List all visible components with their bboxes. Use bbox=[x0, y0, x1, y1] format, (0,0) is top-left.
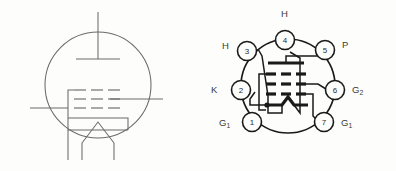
pin-2-label: K bbox=[211, 84, 218, 95]
pin-3-label: H bbox=[222, 40, 229, 51]
pin-1-label-subscript: 1 bbox=[227, 122, 231, 129]
tube-diagram-figure: 1 G 1 2 K 3 H 4 H 5 P bbox=[0, 0, 396, 171]
pin-5-number: 5 bbox=[323, 46, 328, 55]
pin-6-label: G bbox=[352, 84, 359, 95]
pin-4-number: 4 bbox=[283, 36, 288, 45]
pin-6-label-subscript: 2 bbox=[360, 89, 364, 96]
pin-3-number: 3 bbox=[245, 47, 250, 56]
pin-5-label: P bbox=[342, 39, 348, 50]
pin-6-number: 6 bbox=[333, 86, 338, 95]
pin-1-number: 1 bbox=[250, 118, 255, 127]
pin-7-label: G bbox=[341, 117, 348, 128]
pin-4-label: H bbox=[281, 8, 288, 19]
pin-7-number: 7 bbox=[322, 118, 327, 127]
pin-7-label-subscript: 1 bbox=[349, 122, 353, 129]
pin-1-label: G bbox=[219, 117, 226, 128]
pin-2-number: 2 bbox=[239, 86, 244, 95]
